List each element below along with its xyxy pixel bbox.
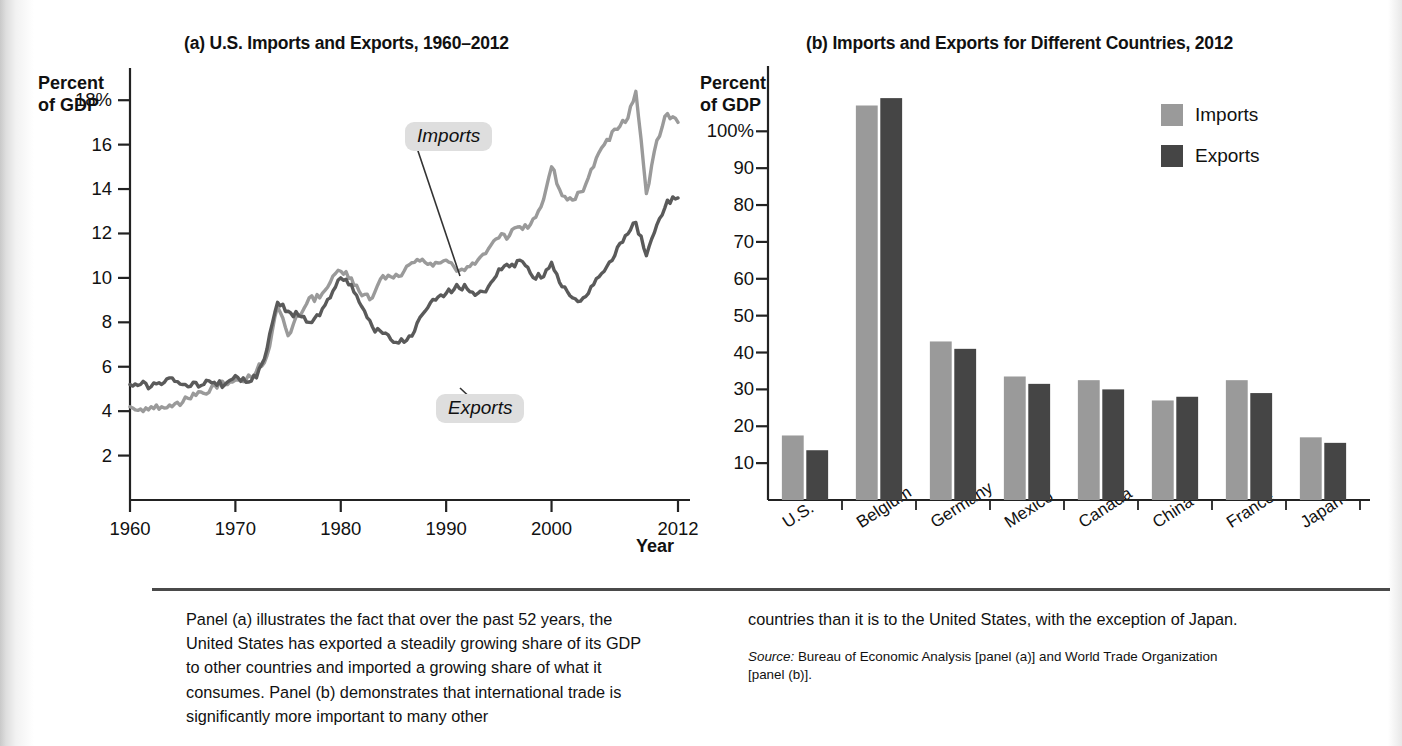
bar-exports-japan <box>1324 443 1346 500</box>
panel-a-exports-callout: Exports <box>436 394 524 423</box>
leader-line-imports <box>417 148 460 276</box>
bar-exports-canada <box>1102 389 1124 500</box>
panel-a-line-imports <box>130 91 678 411</box>
caption-right-column: countries than it is to the United State… <box>748 607 1248 683</box>
bar-exports-belgium <box>880 98 902 500</box>
panel-b-title: (b) Imports and Exports for Different Co… <box>806 33 1233 54</box>
source-note: Source: Bureau of Economic Analysis [pan… <box>748 648 1248 683</box>
panel-a-imports-callout: Imports <box>405 122 492 151</box>
panel-a-series-lines <box>130 91 678 411</box>
panel-a-leader-lines <box>417 148 490 416</box>
figure-container: (a) U.S. Imports and Exports, 1960–2012 … <box>0 0 1402 746</box>
caption-left-paragraph: Panel (a) illustrates the fact that over… <box>186 610 641 725</box>
bar-exports-us <box>806 450 828 500</box>
panel-a-line-exports <box>130 197 678 389</box>
bar-exports-mexico <box>1028 384 1050 500</box>
bar-imports-japan <box>1300 437 1322 500</box>
bar-imports-germany <box>930 341 952 500</box>
bar-imports-mexico <box>1004 376 1026 500</box>
panel-a-axes <box>118 68 690 512</box>
caption-right-paragraph: countries than it is to the United State… <box>748 610 1238 628</box>
bar-imports-canada <box>1078 380 1100 500</box>
bar-imports-belgium <box>856 105 878 500</box>
bar-exports-china <box>1176 397 1198 500</box>
panel-b-plot <box>720 60 1380 560</box>
source-label: Source: <box>748 649 794 664</box>
panel-a-title: (a) U.S. Imports and Exports, 1960–2012 <box>184 33 509 54</box>
bar-exports-france <box>1250 393 1272 500</box>
bar-imports-france <box>1226 380 1248 500</box>
bar-imports-china <box>1152 400 1174 500</box>
bar-exports-germany <box>954 349 976 500</box>
bar-imports-us <box>782 435 804 500</box>
panel-a-plot <box>60 60 700 580</box>
panel-b-bars <box>782 98 1346 500</box>
caption-left-column: Panel (a) illustrates the fact that over… <box>186 607 656 728</box>
panel-b-axes <box>756 66 1370 510</box>
caption-divider <box>152 588 1390 591</box>
source-text: Bureau of Economic Analysis [panel (a)] … <box>748 649 1217 682</box>
